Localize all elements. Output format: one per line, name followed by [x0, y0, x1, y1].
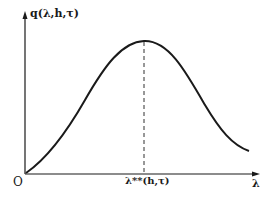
peak-x-label: λ**(h,τ)	[125, 176, 169, 186]
x-axis-arrow-icon	[252, 172, 260, 177]
x-axis-label: λ	[252, 178, 260, 189]
y-axis-arrow-icon	[23, 11, 28, 19]
origin-label: O	[13, 176, 23, 188]
y-axis-label: q(λ,h,τ)	[30, 8, 79, 19]
q-curve	[26, 41, 249, 173]
